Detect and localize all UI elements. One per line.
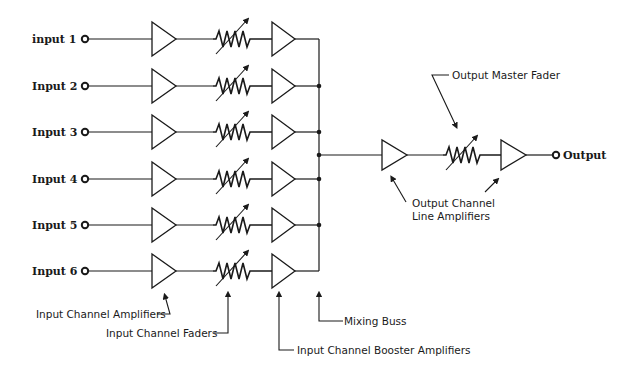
bus-junction-dot: [317, 84, 322, 89]
booster-amplifier-icon: [272, 22, 295, 56]
output-amp1-leader: [392, 178, 406, 202]
input-fader-icon: [213, 263, 272, 279]
output-channel-line-amplifiers-label-1: Output Channel: [412, 197, 495, 209]
input-terminal-icon: [82, 83, 88, 89]
input-channel-rows: input 1Input 2Input 3Input 4Input 5Input…: [32, 20, 319, 288]
input-channel-row: input 1: [32, 20, 319, 56]
input-channel-booster-amplifiers-label: Input Channel Booster Amplifiers: [297, 344, 471, 356]
input-label: Input 3: [32, 126, 77, 139]
booster-amplifier-icon: [272, 208, 295, 242]
input-terminal-icon: [82, 222, 88, 228]
output-chain: Output: [319, 137, 607, 170]
input-terminal-icon: [82, 129, 88, 135]
output-annotations: Output Master Fader Output Channel Line …: [392, 69, 561, 222]
input-amplifier-icon: [152, 22, 176, 56]
bus-junction-dot: [317, 177, 322, 182]
input-amplifier-icon: [152, 115, 176, 149]
input-channel-row: Input 4: [32, 160, 319, 196]
input-channel-amplifiers-label: Input Channel Amplifiers: [36, 308, 166, 320]
input-fader-icon: [213, 217, 272, 233]
input-label: Input 6: [32, 265, 78, 278]
input-fader-icon: [213, 171, 272, 187]
output-master-fader-icon: [443, 147, 503, 163]
input-terminal-icon: [82, 36, 88, 42]
input-label: input 1: [32, 33, 76, 46]
input-channel-faders-label: Input Channel Faders: [106, 327, 217, 339]
booster-amplifier-icon: [272, 69, 295, 103]
output-label: Output: [563, 149, 607, 162]
input-label: Input 2: [32, 80, 77, 93]
mixing-buss-leader: [319, 294, 343, 321]
input-fader-icon: [213, 31, 272, 47]
booster-amplifiers-leader: [279, 294, 294, 350]
input-amplifier-icon: [152, 162, 176, 196]
input-terminal-icon: [82, 176, 88, 182]
mixing-buss-label: Mixing Buss: [344, 315, 407, 327]
booster-amplifier-icon: [272, 254, 295, 288]
input-channel-row: Input 5: [32, 206, 319, 242]
output-line-amplifier-1-icon: [382, 140, 407, 170]
output-channel-line-amplifiers-label-2: Line Amplifiers: [412, 210, 490, 222]
input-fader-icon: [213, 124, 272, 140]
output-master-fader-leader: [432, 75, 456, 126]
output-amp2-leader: [485, 180, 497, 192]
input-annotations: Input Channel Amplifiers Input Channel F…: [36, 294, 471, 356]
output-terminal-icon: [553, 152, 559, 158]
output-master-fader-label: Output Master Fader: [452, 69, 561, 81]
signal-flow-diagram: input 1Input 2Input 3Input 4Input 5Input…: [0, 0, 627, 377]
bus-junction-dot: [317, 223, 322, 228]
input-label: Input 4: [32, 173, 78, 186]
input-terminal-icon: [82, 268, 88, 274]
output-line-amplifier-2-icon: [501, 140, 526, 170]
input-channel-row: Input 6: [32, 252, 319, 288]
booster-amplifier-icon: [272, 115, 295, 149]
bus-junction-dot: [317, 130, 322, 135]
input-amplifier-icon: [152, 69, 176, 103]
input-amplifier-icon: [152, 254, 176, 288]
booster-amplifier-icon: [272, 162, 295, 196]
input-channel-row: Input 3: [32, 113, 319, 149]
input-fader-icon: [213, 78, 272, 94]
input-amplifier-icon: [152, 208, 176, 242]
input-channel-row: Input 2: [32, 67, 319, 103]
input-label: Input 5: [32, 219, 77, 232]
